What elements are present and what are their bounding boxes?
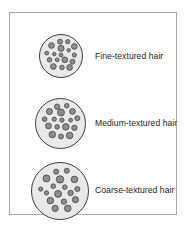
hair-bundle-medium bbox=[35, 98, 86, 149]
hair-shaft-dot bbox=[67, 49, 70, 52]
hair-shaft-dot bbox=[53, 52, 56, 55]
hair-shaft-dot bbox=[66, 132, 73, 139]
hair-shaft-dot bbox=[49, 131, 56, 138]
hair-shaft-dot bbox=[63, 124, 70, 131]
hair-shaft-dot bbox=[75, 187, 80, 192]
hair-shaft-dot bbox=[58, 134, 63, 139]
hair-texture-diagram: Fine-textured hair Medium-textured hair … bbox=[0, 0, 188, 226]
hair-shaft-dot bbox=[44, 191, 48, 195]
label-fine-textured-hair: Fine-textured hair bbox=[95, 51, 163, 61]
hair-shafts-fine bbox=[40, 35, 82, 77]
hair-shaft-dot bbox=[51, 64, 57, 70]
hair-shaft-dot bbox=[54, 104, 59, 109]
hair-shaft-dot bbox=[64, 168, 69, 173]
hair-shaft-dot bbox=[70, 109, 76, 115]
hair-shaft-dot bbox=[72, 197, 78, 203]
diagram-frame: Fine-textured hair Medium-textured hair … bbox=[9, 12, 177, 215]
hair-shaft-dot bbox=[60, 65, 65, 70]
label-coarse-textured-hair: Coarse-textured hair bbox=[95, 185, 174, 195]
hair-shaft-dot bbox=[39, 187, 43, 191]
hair-shaft-dot bbox=[71, 176, 78, 183]
hair-shaft-dot bbox=[55, 58, 59, 62]
hair-shaft-dot bbox=[56, 176, 63, 183]
hair-shaft-dot bbox=[51, 184, 56, 189]
hair-shaft-dot bbox=[52, 117, 56, 121]
hair-shaft-dot bbox=[60, 118, 64, 122]
hair-shaft-dot bbox=[47, 58, 52, 63]
hair-shaft-dot bbox=[72, 44, 78, 50]
hair-shaft-dot bbox=[61, 199, 66, 204]
hair-shaft-dot bbox=[72, 125, 77, 130]
hair-shaft-dot bbox=[59, 53, 63, 57]
hair-shaft-dot bbox=[69, 118, 73, 122]
hair-shaft-dot bbox=[66, 40, 70, 44]
hair-shaft-dot bbox=[62, 57, 68, 63]
hair-shaft-dot bbox=[64, 205, 71, 212]
hair-shaft-dot bbox=[55, 190, 62, 197]
hair-shaft-dot bbox=[45, 51, 49, 55]
hair-bundle-fine bbox=[39, 34, 83, 78]
hair-shaft-dot bbox=[46, 123, 52, 129]
hair-shaft-dot bbox=[42, 117, 47, 122]
hair-bundle-coarse bbox=[31, 162, 89, 220]
hair-shaft-dot bbox=[46, 108, 52, 114]
hair-shaft-dot bbox=[58, 109, 65, 116]
hair-shafts-medium bbox=[36, 99, 85, 148]
hair-shaft-dot bbox=[49, 43, 55, 49]
hair-shaft-dot bbox=[68, 190, 73, 195]
hair-shaft-dot bbox=[72, 53, 76, 57]
hair-shaft-dot bbox=[64, 103, 69, 108]
hair-shaft-dot bbox=[54, 169, 59, 174]
label-medium-textured-hair: Medium-textured hair bbox=[95, 118, 177, 128]
hair-shaft-dot bbox=[55, 125, 60, 130]
hair-shaft-dot bbox=[52, 205, 58, 211]
hair-shaft-dot bbox=[58, 45, 64, 51]
hair-shaft-dot bbox=[67, 65, 73, 71]
hair-shaft-dot bbox=[70, 59, 75, 64]
hair-shafts-coarse bbox=[32, 163, 88, 219]
hair-shaft-dot bbox=[63, 185, 68, 190]
hair-shaft-dot bbox=[47, 197, 54, 204]
hair-shaft-dot bbox=[75, 116, 80, 121]
hair-shaft-dot bbox=[43, 175, 50, 182]
hair-shaft-dot bbox=[58, 39, 63, 44]
